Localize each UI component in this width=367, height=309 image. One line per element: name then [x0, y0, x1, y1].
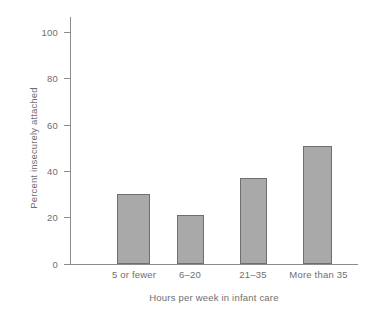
y-tick-40 — [64, 171, 71, 172]
x-axis-line — [70, 264, 358, 265]
y-axis-title: Percent insecurely attached — [28, 32, 42, 264]
y-tick-label-40: 40 — [18, 166, 58, 177]
y-tick-0 — [64, 264, 71, 265]
y-tick-20 — [64, 217, 71, 218]
bar-6-20 — [177, 215, 204, 264]
x-cat-label-1: 6–20 — [160, 269, 220, 280]
y-tick-label-0: 0 — [18, 259, 58, 270]
x-cat-label-2: 21–35 — [223, 269, 283, 280]
y-tick-80 — [64, 78, 71, 79]
y-tick-60 — [64, 125, 71, 126]
y-tick-label-60: 60 — [18, 120, 58, 131]
bar-more-than-35 — [303, 146, 332, 264]
y-tick-label-80: 80 — [18, 73, 58, 84]
y-tick-label-100: 100 — [18, 27, 58, 38]
x-axis-title: Hours per week in infant care — [70, 292, 358, 303]
bar-21-35 — [240, 178, 267, 264]
y-tick-label-20: 20 — [18, 212, 58, 223]
bar-chart: Percent insecurely attached 0 20 40 60 8… — [0, 0, 367, 309]
x-cat-label-3: More than 35 — [276, 269, 361, 280]
bar-5-or-fewer — [117, 194, 150, 264]
y-axis-line — [70, 17, 71, 265]
y-tick-100 — [64, 32, 71, 33]
